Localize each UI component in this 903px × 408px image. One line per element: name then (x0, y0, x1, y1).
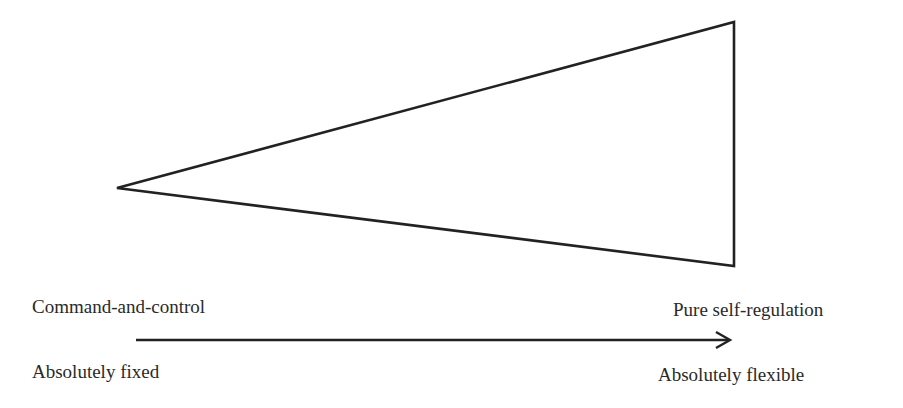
label-absolutely-flexible: Absolutely flexible (658, 364, 804, 386)
spectrum-arrow (136, 332, 730, 348)
regulation-spectrum-triangle (117, 22, 734, 266)
label-command-and-control: Command-and-control (32, 296, 205, 318)
label-absolutely-fixed: Absolutely fixed (32, 361, 159, 383)
diagram-canvas (0, 0, 903, 408)
label-pure-self-regulation: Pure self-regulation (673, 299, 823, 321)
